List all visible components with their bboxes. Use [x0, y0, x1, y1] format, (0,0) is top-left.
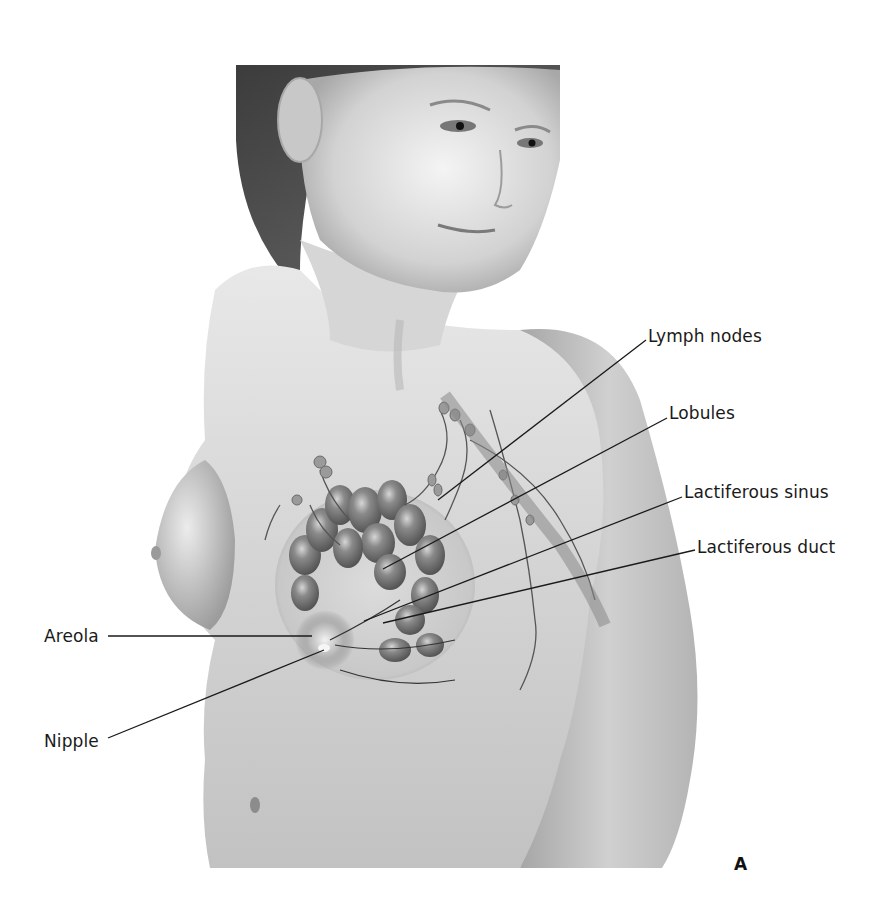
navel — [250, 797, 260, 813]
label-areola: Areola — [44, 628, 99, 645]
left-breast — [151, 460, 235, 630]
label-lymph-nodes: Lymph nodes — [648, 328, 762, 345]
label-lobules: Lobules — [669, 405, 735, 422]
left-nipple — [151, 546, 161, 560]
areola-shape — [295, 610, 355, 670]
ear — [278, 78, 322, 162]
nipple-shape — [318, 644, 330, 652]
label-lactiferous-sinus: Lactiferous sinus — [684, 484, 829, 501]
panel-letter: A — [734, 854, 747, 874]
breast-anatomy-illustration — [0, 0, 885, 913]
label-nipple: Nipple — [44, 733, 99, 750]
label-lactiferous-duct: Lactiferous duct — [697, 539, 835, 556]
